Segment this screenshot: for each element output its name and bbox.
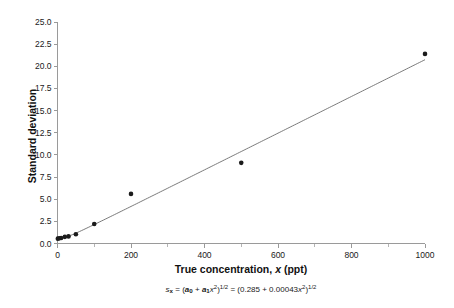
x-tick-label: 800 <box>344 250 358 260</box>
x-tick-label: 200 <box>124 250 138 260</box>
equation-value-a1: 0.00043 <box>269 285 298 294</box>
x-tick-label: 0 <box>55 250 60 260</box>
data-points-group <box>56 52 428 241</box>
equation-equals-1: = ( <box>175 285 185 294</box>
y-tick-group <box>54 22 58 244</box>
model-equation: sx = (a0 + a1x2)1/2 = (0.285 + 0.00043x2… <box>57 284 425 294</box>
x-axis-title: True concentration, x (ppt) <box>57 263 425 275</box>
equation-root-2: 1/2 <box>308 284 316 290</box>
equation-root-1: 1/2 <box>220 284 228 290</box>
x-tick-label: 1000 <box>416 250 435 260</box>
y-tick-label: 5.0 <box>40 194 52 204</box>
x-ticklabel-group: 02004006008001000 <box>55 250 435 260</box>
x-tick-label: 600 <box>271 250 285 260</box>
equation-equals-2: = ( <box>230 285 240 294</box>
chart-canvas: 0.02.55.07.510.012.515.017.520.022.525.0… <box>0 0 454 308</box>
x-axis-title-text-a: True concentration, <box>175 263 275 275</box>
equation-value-a0: 0.285 <box>240 285 260 294</box>
data-point <box>423 52 428 57</box>
y-tick-label: 2.5 <box>40 216 52 226</box>
data-point <box>66 234 71 239</box>
y-tick-label: 0.0 <box>40 239 52 249</box>
figure-container: 0.02.55.07.510.012.515.017.520.022.525.0… <box>0 0 454 308</box>
fit-curve <box>58 60 426 239</box>
y-axis-title: Standard deviation <box>26 56 38 216</box>
axes-group <box>57 22 425 244</box>
data-point <box>74 232 79 237</box>
equation-plus-1: + <box>193 285 202 294</box>
data-point <box>239 161 244 166</box>
x-tick-label: 400 <box>197 250 211 260</box>
equation-plus-2: + <box>260 285 269 294</box>
data-point <box>92 222 97 227</box>
x-tick-group <box>58 244 426 248</box>
y-tick-label: 25.0 <box>35 17 52 27</box>
equation-lhs-subscript: x <box>170 287 173 294</box>
y-tick-label: 22.5 <box>35 39 52 49</box>
data-point <box>129 192 134 197</box>
y-tick-label: 7.5 <box>40 172 52 182</box>
x-axis-title-text-b: (ppt) <box>281 263 307 275</box>
